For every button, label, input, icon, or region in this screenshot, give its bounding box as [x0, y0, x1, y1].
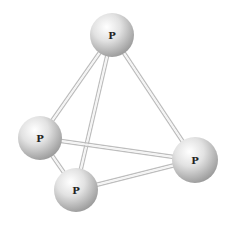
- bonds-group: [39, 34, 197, 191]
- atoms-group: PPPP: [18, 13, 218, 212]
- atom-label: P: [191, 155, 199, 166]
- atom-label: P: [72, 185, 80, 196]
- atom-right: P: [172, 137, 218, 183]
- atom-bottom: P: [54, 168, 98, 212]
- atom-left: P: [18, 116, 62, 160]
- atom-label: P: [108, 30, 116, 41]
- p4-molecule-diagram: PPPP: [0, 0, 232, 228]
- bond-left-right: [40, 136, 195, 161]
- atom-label: P: [36, 133, 44, 144]
- atom-top: P: [90, 13, 134, 57]
